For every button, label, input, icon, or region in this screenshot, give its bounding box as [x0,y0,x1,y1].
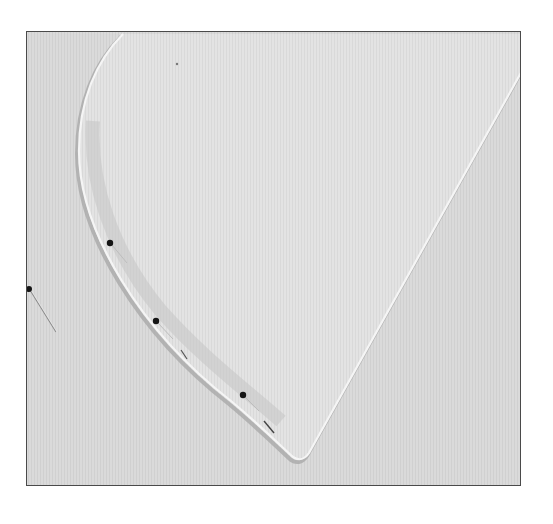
pin-head-icon [107,240,113,246]
photo-frame [26,31,521,486]
fabric-photo [27,32,521,486]
pin-head-icon [240,392,246,398]
lint-speck [176,63,178,65]
pin-head-icon [153,318,159,324]
